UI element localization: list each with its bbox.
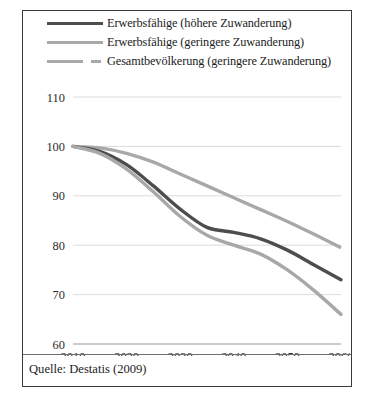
y-tick-80: 80 <box>53 239 65 253</box>
legend-item-1-label: Erwerbsfähige (geringere Zuwanderung) <box>107 35 304 50</box>
line-chart-svg: 60708090100110 201020202030204020502060 <box>23 73 350 356</box>
legend-item-0: Erwerbsfähige (höhere Zuwanderung) <box>47 13 291 33</box>
source-caption: Quelle: Destatis (2009) <box>23 354 351 386</box>
series-line-2 <box>73 146 341 314</box>
legend-item-2-label: Gesamtbevölkerung (geringere Zuwanderung… <box>107 54 331 69</box>
grid-lines <box>73 97 341 344</box>
legend-item-2: Gesamtbevölkerung (geringere Zuwanderung… <box>47 51 331 71</box>
line-swatch-light-dashed-icon <box>47 54 103 68</box>
legend-item-0-label: Erwerbsfähige (höhere Zuwanderung) <box>107 16 291 31</box>
y-tick-70: 70 <box>53 288 65 302</box>
series-line-1 <box>73 146 341 279</box>
y-axis-tick-labels: 60708090100110 <box>46 91 65 352</box>
legend-item-1: Erwerbsfähige (geringere Zuwanderung) <box>47 32 304 52</box>
chart-figure-frame: Erwerbsfähige (höhere Zuwanderung) Erwer… <box>22 10 352 387</box>
chart-plot-area: 60708090100110 201020202030204020502060 <box>23 73 351 356</box>
y-tick-100: 100 <box>46 140 65 154</box>
source-caption-text: Quelle: Destatis (2009) <box>29 362 147 377</box>
line-swatch-light-solid-icon <box>47 35 103 49</box>
y-tick-90: 90 <box>53 189 65 203</box>
line-swatch-dark-solid-icon <box>47 16 103 30</box>
chart-legend: Erwerbsfähige (höhere Zuwanderung) Erwer… <box>23 11 351 73</box>
data-series-layer <box>73 146 341 314</box>
y-tick-110: 110 <box>47 91 65 105</box>
